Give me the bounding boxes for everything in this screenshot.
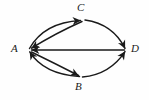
vertex-label-a: A	[11, 43, 18, 54]
vertex-label-c: C	[77, 2, 84, 13]
edge-b-to-d	[83, 52, 126, 77]
vertex-label-b: B	[75, 81, 82, 92]
vertex-label-d: D	[131, 43, 139, 54]
graph-figure: A C B D	[0, 0, 149, 100]
edge-c-to-d	[85, 20, 125, 48]
